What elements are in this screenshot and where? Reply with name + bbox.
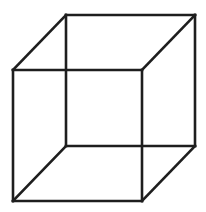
cube-wireframe	[0, 0, 206, 212]
connector-bottom-left-edge	[13, 146, 66, 201]
necker-cube-figure	[0, 0, 206, 212]
connector-top-right-edge	[142, 15, 195, 70]
connector-top-left-edge	[13, 15, 66, 70]
connector-bottom-right-edge	[142, 146, 195, 201]
